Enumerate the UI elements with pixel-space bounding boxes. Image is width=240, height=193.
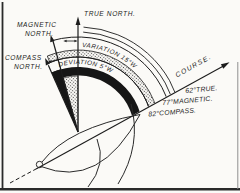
boat	[36, 104, 140, 187]
label-course-magnetic: 77°MAGNETIC.	[162, 95, 213, 106]
boat-hull-lower	[41, 115, 140, 173]
label-magnetic-north-line1: MAGNETIC	[17, 21, 57, 28]
label-course-compass: 82°COMPASS.	[148, 106, 196, 117]
label-true-north: TRUE NORTH.	[84, 10, 136, 17]
label-magnetic-north-line2: NORTH.	[25, 30, 54, 37]
compass-variation-deviation-diagram: TRUE NORTH. MAGNETIC NORTH. COMPASS NORT…	[0, 0, 240, 193]
course-dashed-tail	[10, 169, 36, 183]
label-compass-north-line1: COMPASS	[5, 54, 42, 61]
label-course-true: 62°TRUE.	[185, 84, 218, 94]
diagram-canvas: TRUE NORTH. MAGNETIC NORTH. COMPASS NORT…	[0, 0, 240, 193]
label-compass-north-line2: NORTH.	[14, 63, 43, 70]
variation-angle-indicator	[63, 40, 77, 42]
